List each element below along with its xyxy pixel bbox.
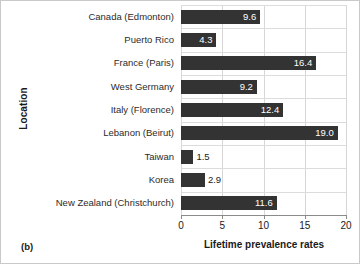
bar xyxy=(181,150,193,164)
bar-value-label: 1.5 xyxy=(196,150,209,164)
x-tick-label: 5 xyxy=(219,220,225,231)
gridline-horizontal xyxy=(181,192,346,193)
gridline-horizontal xyxy=(181,168,346,169)
gridline-horizontal xyxy=(181,145,346,146)
bar-value-label: 9.2 xyxy=(181,80,253,94)
bar-value-label: 11.6 xyxy=(181,196,273,210)
bar-value-label: 12.4 xyxy=(181,103,279,117)
bar-value-label: 19.0 xyxy=(181,126,334,140)
category-label: Taiwan xyxy=(144,150,174,164)
y-axis-title: Location xyxy=(15,1,31,216)
gridline-vertical xyxy=(346,5,347,215)
gridline-horizontal xyxy=(181,5,346,6)
bar-value-label: 4.3 xyxy=(181,33,212,47)
category-label: Puerto Rico xyxy=(124,33,174,47)
panel-tag: (b) xyxy=(21,241,33,252)
x-tick-label: 20 xyxy=(340,220,351,231)
x-tick-label: 0 xyxy=(178,220,184,231)
x-tick-label: 15 xyxy=(299,220,310,231)
bar-value-label: 9.6 xyxy=(181,10,256,24)
x-tick-mark xyxy=(346,215,347,219)
x-tick-mark xyxy=(305,215,306,219)
y-axis-title-text: Location xyxy=(18,87,29,129)
bar-value-label: 16.4 xyxy=(181,56,312,70)
x-tick-label: 10 xyxy=(258,220,269,231)
gridline-horizontal xyxy=(181,52,346,53)
gridline-horizontal xyxy=(181,75,346,76)
plot-area: 9.64.316.49.212.419.01.52.911.6 xyxy=(181,5,346,215)
category-label: Canada (Edmonton) xyxy=(88,10,174,24)
x-tick-mark xyxy=(181,215,182,219)
x-tick-mark xyxy=(264,215,265,219)
category-label: Lebanon (Beirut) xyxy=(103,126,174,140)
gridline-horizontal xyxy=(181,28,346,29)
x-axis-title: Lifetime prevalence rates xyxy=(181,239,347,250)
category-label: Korea xyxy=(149,173,174,187)
category-label: New Zealand (Christchurch) xyxy=(56,196,174,210)
category-axis-labels: Canada (Edmonton)Puerto RicoFrance (Pari… xyxy=(31,5,177,215)
category-label: West Germany xyxy=(111,80,174,94)
category-label: France (Paris) xyxy=(114,56,174,70)
gridline-vertical xyxy=(305,5,306,215)
figure-panel-b: Location Canada (Edmonton)Puerto RicoFra… xyxy=(0,0,360,264)
bar-value-label: 2.9 xyxy=(208,173,221,187)
gridline-horizontal xyxy=(181,98,346,99)
category-label: Italy (Florence) xyxy=(111,103,174,117)
gridline-horizontal xyxy=(181,122,346,123)
x-tick-mark xyxy=(222,215,223,219)
bar xyxy=(181,173,205,187)
